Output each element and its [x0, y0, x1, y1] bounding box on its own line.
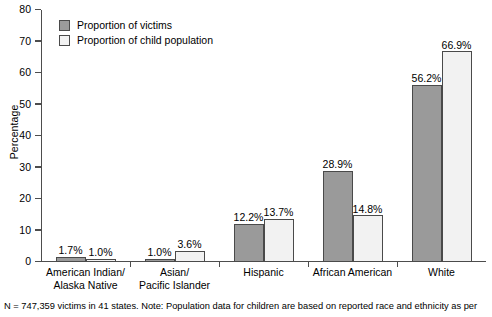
y-axis-title: Percentage — [8, 87, 20, 177]
bar-victims: 12.2% — [234, 224, 264, 262]
category-label-line1: White — [428, 266, 455, 278]
category-label: African American — [308, 266, 397, 279]
bar-value-label: 1.0% — [89, 247, 113, 258]
y-tick-label-30: 30 — [19, 162, 31, 173]
bar-victims: 28.9% — [323, 171, 353, 262]
category-label-line1: African American — [313, 266, 392, 278]
legend-swatch-child-population — [59, 35, 70, 46]
category-label-line1: American Indian/ — [46, 266, 125, 278]
y-tick-label-60: 60 — [19, 67, 31, 78]
y-tick-label-40: 40 — [19, 130, 31, 141]
x-axis-category-labels: American Indian/Alaska NativeAsian/Pacif… — [41, 266, 486, 296]
bar-value-label: 28.9% — [323, 159, 353, 170]
legend-item-child-population: Proportion of child population — [59, 34, 213, 47]
legend-swatch-victims — [59, 20, 70, 31]
legend-label-child-population: Proportion of child population — [77, 35, 213, 46]
legend-label-victims: Proportion of victims — [77, 20, 172, 31]
y-tick-label-80: 80 — [19, 4, 31, 15]
chart-footnote: N = 747,359 victims in 41 states. Note: … — [4, 301, 490, 312]
y-tick-label-70: 70 — [19, 36, 31, 47]
legend-item-victims: Proportion of victims — [59, 19, 213, 32]
bar-group: 56.2%66.9% — [397, 10, 486, 262]
bar-value-label: 1.7% — [59, 245, 83, 256]
bar-value-label: 12.2% — [234, 212, 264, 223]
y-tick-label-10: 10 — [19, 225, 31, 236]
bar-child-population: 66.9% — [442, 51, 472, 262]
bar-child-population: 14.8% — [353, 215, 383, 262]
category-label: White — [397, 266, 486, 279]
y-tick-label-20: 20 — [19, 193, 31, 204]
category-label: Asian/Pacific Islander — [130, 266, 219, 291]
category-label-line1: Asian/ — [160, 266, 189, 278]
bar-value-label: 1.0% — [148, 247, 172, 258]
bar-child-population: 3.6% — [175, 251, 205, 262]
bar-victims: 56.2% — [412, 85, 442, 262]
bar-victims: 1.7% — [56, 257, 86, 262]
bar-value-label: 66.9% — [442, 40, 472, 51]
category-label-line2: Pacific Islander — [130, 279, 219, 292]
category-label-line1: Hispanic — [243, 266, 283, 278]
y-tick-label-50: 50 — [19, 99, 31, 110]
bar-child-population: 1.0% — [86, 259, 116, 262]
chart-legend: Proportion of victims Proportion of chil… — [59, 19, 213, 49]
bar-value-label: 13.7% — [264, 207, 294, 218]
bar-chart-figure: Percentage 01020304050607080 1.7%1.0%1.0… — [0, 0, 492, 317]
bar-group: 12.2%13.7% — [219, 10, 308, 262]
bar-value-label: 3.6% — [178, 239, 202, 250]
y-tick-label-0: 0 — [25, 256, 31, 267]
bar-value-label: 56.2% — [412, 73, 442, 84]
category-label: Hispanic — [219, 266, 308, 279]
bar-value-label: 14.8% — [353, 204, 383, 215]
bar-child-population: 13.7% — [264, 219, 294, 262]
bar-victims: 1.0% — [145, 259, 175, 262]
bar-group: 28.9%14.8% — [308, 10, 397, 262]
category-label-line2: Alaska Native — [41, 279, 130, 292]
category-label: American Indian/Alaska Native — [41, 266, 130, 291]
